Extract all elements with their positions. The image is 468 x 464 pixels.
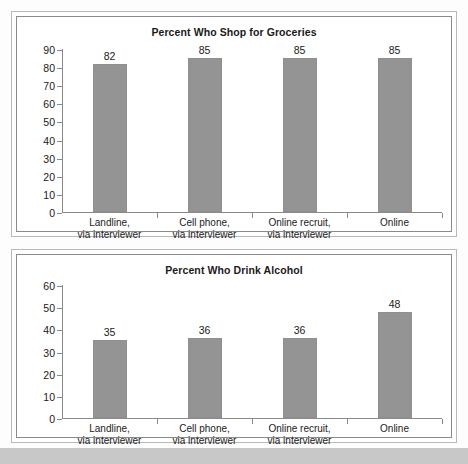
- y-tick-label: 60: [43, 280, 55, 292]
- x-category-label-line: via interviewer: [157, 229, 252, 241]
- x-category-label-line: via interviewer: [62, 229, 157, 241]
- y-tick-label: 80: [43, 62, 55, 74]
- x-category-label-line: Landline,: [62, 217, 157, 229]
- x-category-label-line: Cell phone,: [157, 217, 252, 229]
- x-category-label: Landline,via interviewer: [62, 217, 157, 241]
- x-category-label: Online recruit,via interviewer: [252, 423, 347, 447]
- y-tick-mark: [57, 375, 62, 376]
- y-tick-label: 20: [43, 369, 55, 381]
- chart-panel-alcohol: Percent Who Drink Alcohol 0102030405060 …: [11, 249, 457, 443]
- y-tick-label: 30: [43, 153, 55, 165]
- x-category-label-line: Online recruit,: [252, 217, 347, 229]
- y-axis-line-groceries: [62, 49, 63, 213]
- y-tick-label: 30: [43, 347, 55, 359]
- y-tick-mark: [57, 195, 62, 196]
- y-tick-mark: [57, 419, 62, 420]
- bar-value-label: 85: [294, 44, 306, 56]
- chart-title-alcohol: Percent Who Drink Alcohol: [17, 264, 451, 276]
- y-tick-label: 20: [43, 171, 55, 183]
- x-category-label-line: via interviewer: [62, 435, 157, 447]
- bar-value-label: 48: [389, 298, 401, 310]
- y-tick-mark: [57, 286, 62, 287]
- bar: 85: [188, 58, 222, 212]
- plot-area-groceries: 0102030405060708090 82Landline,via inter…: [62, 49, 442, 213]
- y-tick-mark: [57, 50, 62, 51]
- y-tick-label: 0: [49, 413, 55, 425]
- y-tick-mark: [57, 397, 62, 398]
- y-tick-mark: [57, 308, 62, 309]
- y-tick-label: 90: [43, 44, 55, 56]
- y-tick-mark: [57, 68, 62, 69]
- y-tick-label: 10: [43, 189, 55, 201]
- y-tick-label: 60: [43, 98, 55, 110]
- bar: 36: [188, 338, 222, 418]
- x-category-label: Cell phone,via interviewer: [157, 217, 252, 241]
- chart-panel-groceries: Percent Who Shop for Groceries 010203040…: [11, 11, 457, 237]
- y-tick-mark: [57, 141, 62, 142]
- y-tick-label: 70: [43, 80, 55, 92]
- y-tick-mark: [57, 213, 62, 214]
- bar: 35: [93, 340, 127, 418]
- plot-area-alcohol: 0102030405060 35Landline,via interviewer…: [62, 285, 442, 419]
- y-tick-label: 0: [49, 207, 55, 219]
- y-tick-label: 50: [43, 302, 55, 314]
- y-tick-mark: [57, 177, 62, 178]
- bar-value-label: 85: [389, 44, 401, 56]
- y-tick-mark: [57, 330, 62, 331]
- x-category-label: Landline,via interviewer: [62, 423, 157, 447]
- x-category-label-line: via interviewer: [157, 435, 252, 447]
- bar-value-label: 82: [104, 50, 116, 62]
- bar-value-label: 85: [199, 44, 211, 56]
- page-bottom-band: [0, 448, 468, 464]
- bar: 85: [283, 58, 317, 212]
- x-category-label-line: Cell phone,: [157, 423, 252, 435]
- bar-value-label: 36: [294, 324, 306, 336]
- y-tick-mark: [57, 353, 62, 354]
- y-tick-mark: [57, 159, 62, 160]
- x-tick-mark: [442, 213, 443, 218]
- bar: 82: [93, 64, 127, 213]
- x-category-label-line: Landline,: [62, 423, 157, 435]
- bar: 85: [378, 58, 412, 212]
- x-category-label-line: via interviewer: [252, 229, 347, 241]
- y-tick-label: 40: [43, 135, 55, 147]
- x-category-label-line: Online: [347, 423, 442, 435]
- bar: 48: [378, 312, 412, 418]
- chart-panel-inner-groceries: Percent Who Shop for Groceries 010203040…: [16, 16, 452, 232]
- chart-panel-inner-alcohol: Percent Who Drink Alcohol 0102030405060 …: [16, 254, 452, 438]
- y-tick-mark: [57, 122, 62, 123]
- x-category-label-line: Online recruit,: [252, 423, 347, 435]
- chart-title-groceries: Percent Who Shop for Groceries: [17, 26, 451, 38]
- bar-value-label: 35: [104, 326, 116, 338]
- y-axis-line-alcohol: [62, 285, 63, 419]
- x-category-label: Online recruit,via interviewer: [252, 217, 347, 241]
- x-category-label: Online: [347, 217, 442, 229]
- x-tick-mark: [442, 419, 443, 424]
- bar: 36: [283, 338, 317, 418]
- y-tick-mark: [57, 86, 62, 87]
- x-category-label-line: via interviewer: [252, 435, 347, 447]
- page-canvas: Percent Who Shop for Groceries 010203040…: [0, 0, 468, 464]
- x-category-label: Cell phone,via interviewer: [157, 423, 252, 447]
- y-tick-label: 40: [43, 324, 55, 336]
- x-category-label-line: Online: [347, 217, 442, 229]
- bar-value-label: 36: [199, 324, 211, 336]
- x-category-label: Online: [347, 423, 442, 435]
- y-tick-label: 50: [43, 116, 55, 128]
- y-tick-label: 10: [43, 391, 55, 403]
- y-tick-mark: [57, 104, 62, 105]
